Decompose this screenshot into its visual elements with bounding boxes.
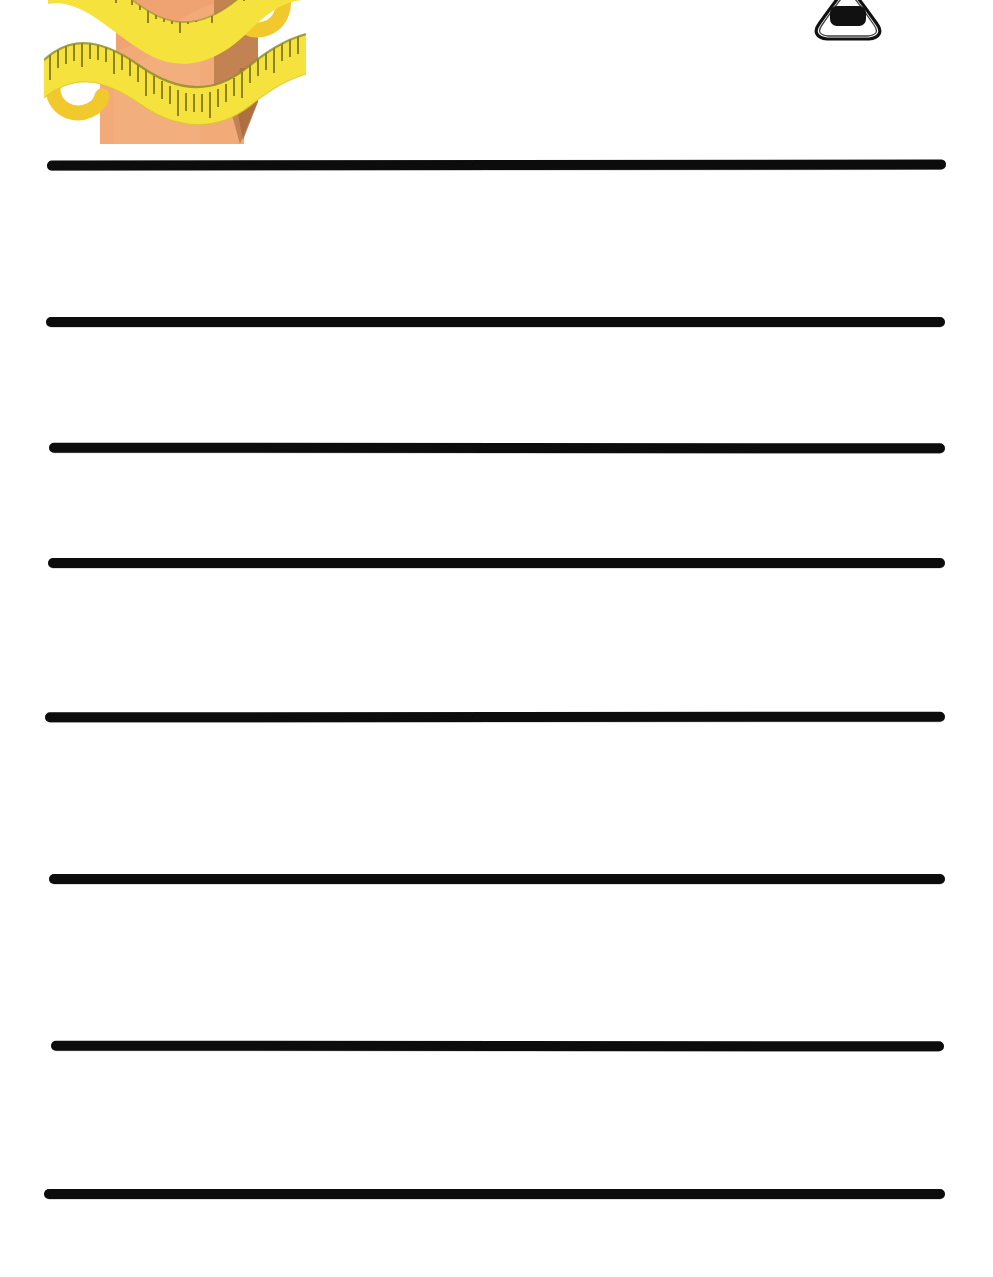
waist-with-tape-measure-clipart	[44, 0, 306, 144]
ruled-line-5	[45, 712, 945, 723]
ruled-line-2	[46, 317, 945, 327]
ruled-line-4	[48, 558, 945, 568]
onigiri-rice-ball-clipart	[805, 0, 891, 48]
ruled-line-1	[47, 159, 946, 170]
ruled-line-3	[49, 443, 945, 454]
worksheet-page	[0, 0, 993, 1277]
ruled-line-7	[51, 1041, 944, 1052]
ruled-line-6	[49, 874, 945, 884]
ruled-line-8	[44, 1189, 945, 1199]
